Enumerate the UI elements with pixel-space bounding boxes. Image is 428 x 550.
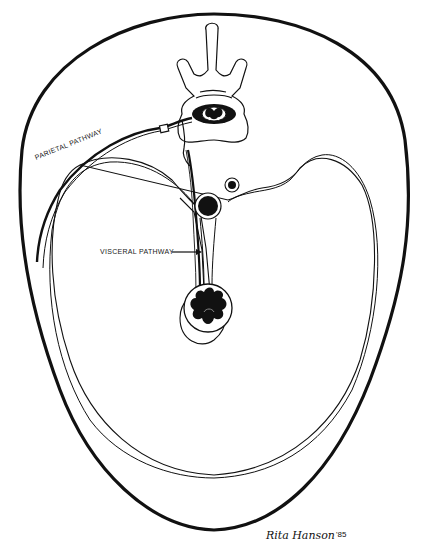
visceral-pathway-arrow: [172, 249, 202, 255]
aorta: [198, 196, 218, 216]
anatomy-diagram: PARIETAL PATHWAY VISCERAL PATHWAY Rita H…: [0, 0, 428, 550]
inferior-vena-cava: [228, 181, 236, 189]
visceral-pathway-label: VISCERAL PATHWAY: [100, 248, 174, 255]
vertebra: [177, 23, 248, 142]
artist-signature-year: '85: [336, 530, 347, 539]
artist-signature: Rita Hanson: [265, 529, 335, 542]
